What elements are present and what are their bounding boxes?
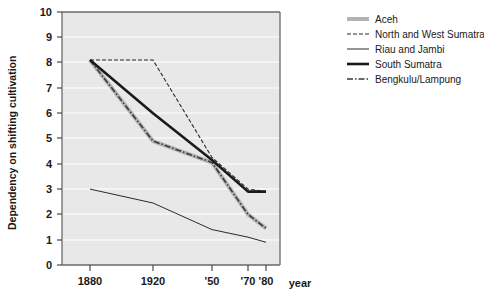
y-tick-label-1: 1 <box>46 234 52 246</box>
y-tick-label-4: 4 <box>46 158 53 170</box>
line-chart: 10 9 8 7 6 5 4 3 2 1 0 1880 1920 '50 '70… <box>0 0 484 296</box>
y-tick-label-2: 2 <box>46 208 52 220</box>
x-axis-title: year <box>289 277 312 289</box>
y-tick-label-0: 0 <box>46 259 52 271</box>
x-tick-label-70: '70 <box>241 275 256 287</box>
y-tick-label-5: 5 <box>46 132 52 144</box>
legend-label-north-and-west-sumatra: North and West Sumatra <box>375 29 484 40</box>
x-tick-marks <box>90 265 266 271</box>
y-tick-label-6: 6 <box>46 107 52 119</box>
x-tick-label-80: '80 <box>259 275 274 287</box>
legend-label-bengkulu-lampung: Bengkulu/Lampung <box>375 74 461 85</box>
chart-legend: AcehNorth and West SumatraRiau and Jambi… <box>347 14 484 85</box>
legend-label-aceh: Aceh <box>375 14 398 25</box>
y-tick-marks <box>57 12 62 265</box>
x-tick-label-1920: 1920 <box>141 275 165 287</box>
y-tick-label-9: 9 <box>46 31 52 43</box>
y-axis-title: Dependency on shifting cultivation <box>6 56 18 230</box>
y-tick-label-8: 8 <box>46 56 52 68</box>
y-tick-label-10: 10 <box>40 6 52 18</box>
legend-label-south-sumatra: South Sumatra <box>375 59 442 70</box>
y-tick-label-7: 7 <box>46 82 52 94</box>
y-tick-label-3: 3 <box>46 183 52 195</box>
chart-figure: 10 9 8 7 6 5 4 3 2 1 0 1880 1920 '50 '70… <box>0 0 484 296</box>
x-tick-label-50: '50 <box>205 275 220 287</box>
x-tick-label-1880: 1880 <box>78 275 102 287</box>
legend-label-riau-and-jambi: Riau and Jambi <box>375 44 444 55</box>
